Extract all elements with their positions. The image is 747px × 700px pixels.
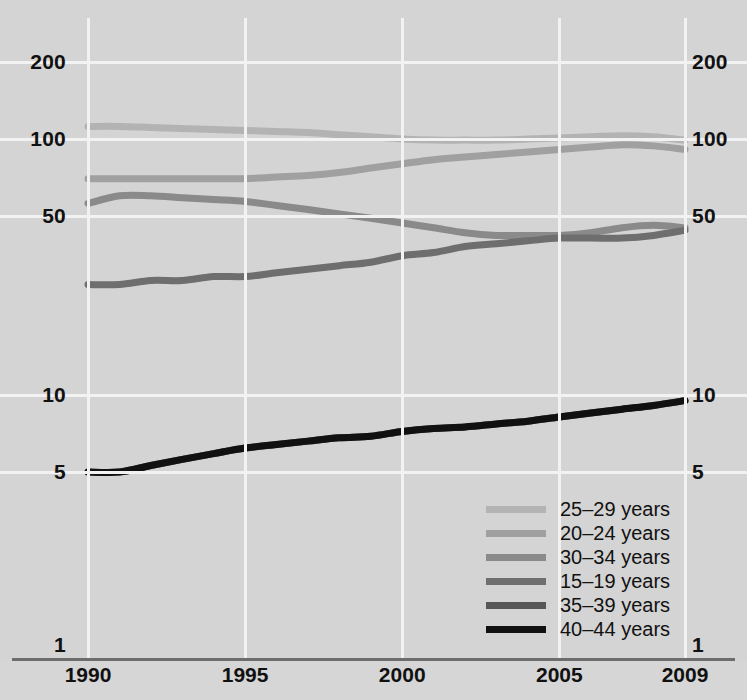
y-axis-tick-left-50: 50: [0, 205, 66, 226]
vertical-gridline-2009: [684, 18, 687, 660]
x-axis-tick-1990: 1990: [28, 664, 148, 685]
horizontal-gridline-50: [0, 215, 747, 218]
y-axis-tick-left-10: 10: [0, 384, 66, 405]
y-axis-tick-left-100: 100: [0, 128, 66, 149]
legend-item[interactable]: 30–34 years: [486, 545, 670, 569]
legend-swatch-icon: [486, 602, 546, 609]
vertical-gridline-1990: [87, 18, 90, 660]
legend-swatch-icon: [486, 626, 546, 633]
legend-item-label: 25–29 years: [560, 499, 670, 519]
legend-item[interactable]: 35–39 years: [486, 593, 670, 617]
y-axis-tick-left-1: 1: [0, 634, 66, 655]
series-line-40-44: [88, 401, 685, 473]
y-axis-tick-right-1: 1: [692, 634, 704, 655]
legend-item-label: 35–39 years: [560, 595, 670, 615]
legend-item-label: 30–34 years: [560, 547, 670, 567]
legend-item[interactable]: 40–44 years: [486, 617, 670, 641]
legend-item[interactable]: 20–24 years: [486, 521, 670, 545]
horizontal-gridline-5: [0, 471, 747, 474]
horizontal-gridline-100: [0, 138, 747, 141]
vertical-gridline-2000: [401, 18, 404, 660]
legend-swatch-icon: [486, 554, 546, 561]
legend-swatch-icon: [486, 578, 546, 585]
y-axis-tick-right-100: 100: [692, 128, 728, 149]
series-line-15-19: [88, 230, 685, 285]
y-axis-tick-right-10: 10: [692, 384, 716, 405]
y-axis-tick-right-50: 50: [692, 205, 716, 226]
x-axis-tick-2000: 2000: [342, 664, 462, 685]
vertical-gridline-1995: [244, 18, 247, 660]
x-axis-tick-2009: 2009: [625, 664, 745, 685]
y-axis-tick-right-5: 5: [692, 461, 704, 482]
series-line-20-24: [88, 145, 685, 179]
legend-item[interactable]: 15–19 years: [486, 569, 670, 593]
x-axis-tick-2005: 2005: [499, 664, 619, 685]
chart-legend: 25–29 years20–24 years30–34 years15–19 y…: [486, 497, 670, 641]
x-axis-tick-1995: 1995: [185, 664, 305, 685]
legend-item[interactable]: 25–29 years: [486, 497, 670, 521]
y-axis-tick-left-5: 5: [0, 461, 66, 482]
legend-item-label: 20–24 years: [560, 523, 670, 543]
legend-swatch-icon: [486, 530, 546, 537]
legend-item-label: 15–19 years: [560, 571, 670, 591]
chart-container: 2002001001005050101055111990199520002005…: [0, 0, 747, 700]
y-axis-tick-right-200: 200: [692, 51, 728, 72]
x-axis-line: [12, 658, 735, 661]
legend-swatch-icon: [486, 506, 546, 513]
horizontal-gridline-10: [0, 394, 747, 397]
y-axis-tick-left-200: 200: [0, 51, 66, 72]
horizontal-gridline-200: [0, 61, 747, 64]
legend-item-label: 40–44 years: [560, 619, 670, 639]
